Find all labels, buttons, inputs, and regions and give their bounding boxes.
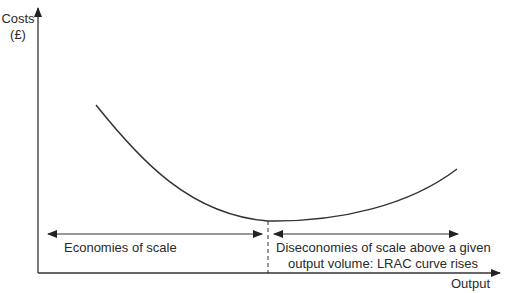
diseconomies-label-line1: Diseconomies of scale above a given: [276, 240, 505, 256]
y-axis-label: Costs (£): [0, 11, 36, 43]
diseconomies-label: Diseconomies of scale above a given outp…: [276, 240, 505, 272]
diseconomies-label-line2: output volume: LRAC curve rises: [276, 256, 505, 272]
x-axis-label: Output: [451, 276, 490, 292]
y-axis-label-line1: Costs: [0, 11, 36, 27]
y-axis-label-line2: (£): [0, 27, 36, 43]
lrac-curve: [96, 105, 457, 221]
economies-of-scale-label: Economies of scale: [64, 240, 177, 256]
